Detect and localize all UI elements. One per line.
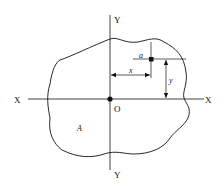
origin-label: O xyxy=(114,104,121,114)
diagram-canvas: X X Y Y O A a x y xyxy=(0,0,224,188)
y-axis-bottom-label: Y xyxy=(114,170,121,180)
area-outline xyxy=(48,38,190,156)
element-label: a xyxy=(139,51,143,60)
area-label: A xyxy=(76,124,82,133)
x-axis-left-label: X xyxy=(14,95,21,105)
dimension-y-label: y xyxy=(168,76,173,85)
origin-point xyxy=(107,96,112,101)
dimension-x-label: x xyxy=(128,66,133,75)
area-moment-diagram: X X Y Y O A a x y xyxy=(0,0,224,188)
y-axis-top-label: Y xyxy=(114,15,121,25)
x-axis-right-label: X xyxy=(205,95,212,105)
